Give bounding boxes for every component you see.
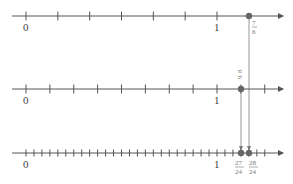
- label-zero: 0: [23, 21, 29, 33]
- label-one: 1: [214, 21, 220, 33]
- label-one: 1: [214, 94, 220, 106]
- fraction-denominator: 24: [235, 168, 243, 176]
- fraction-denominator: 8: [236, 69, 244, 73]
- point-9-8: [238, 86, 244, 92]
- fraction-denominator: 6: [252, 28, 256, 36]
- point-28-24: [246, 150, 252, 156]
- fraction-numerator: 9: [236, 75, 244, 79]
- label-one: 1: [214, 158, 220, 170]
- fraction-numerator: 28: [249, 159, 257, 167]
- number-line-eighths: 0 1 9 8: [12, 69, 283, 106]
- fraction-numerator: 7: [252, 19, 256, 27]
- number-line-diagram: 0 1 7 6 0 1 9 8 0 1 27 24 28 24: [0, 0, 293, 184]
- label-zero: 0: [23, 94, 29, 106]
- number-line-sixths: 0 1 7 6: [12, 12, 283, 37]
- label-zero: 0: [23, 158, 29, 170]
- number-line-twenty-fourths: 0 1 27 24 28 24: [12, 150, 283, 177]
- fraction-numerator: 27: [235, 159, 243, 167]
- fraction-denominator: 24: [249, 168, 257, 176]
- point-27-24: [238, 150, 244, 156]
